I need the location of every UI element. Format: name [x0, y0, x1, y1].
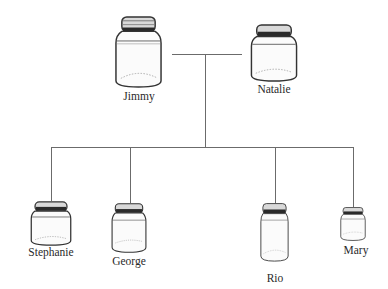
jar-icon-rio	[260, 203, 289, 262]
jar-icon-natalie	[250, 24, 298, 82]
person-label-natalie: Natalie	[257, 83, 290, 95]
drop-line-stephanie	[51, 147, 52, 201]
drop-line-george	[130, 147, 131, 203]
jar-icon-stephanie	[30, 201, 72, 246]
person-label-jimmy: Jimmy	[123, 90, 154, 102]
family-tree-diagram: Jimmy Natalie Stephanie Georg	[0, 0, 388, 289]
sibling-line	[51, 147, 354, 148]
person-label-stephanie: Stephanie	[28, 246, 73, 258]
drop-line-rio	[275, 147, 276, 203]
marriage-line	[172, 54, 242, 55]
jar-icon-george	[111, 203, 147, 253]
jar-icon-jimmy	[114, 16, 163, 88]
person-label-mary: Mary	[344, 244, 369, 256]
drop-line-mary	[353, 147, 354, 207]
descent-stem-line	[205, 54, 206, 147]
person-label-george: George	[112, 255, 146, 267]
person-label-rio: Rio	[267, 272, 284, 284]
jar-icon-mary	[340, 207, 366, 241]
